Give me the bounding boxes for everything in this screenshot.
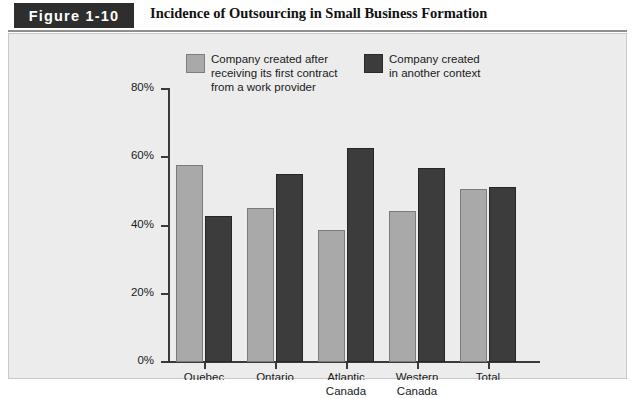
y-axis-label-60: 60% xyxy=(114,149,154,161)
y-tick-0 xyxy=(161,361,169,363)
legend-light-line2: receiving its first contract xyxy=(211,66,338,80)
bar-atlantic-dark xyxy=(347,148,374,362)
bar-western-light xyxy=(389,211,416,362)
y-axis-label-40: 40% xyxy=(114,218,154,230)
header-divider xyxy=(8,30,627,32)
page-bottom-margin xyxy=(0,380,635,387)
x-tick-1 xyxy=(204,363,206,369)
figure-number-tag: Figure 1-10 xyxy=(14,3,134,28)
legend-light-line1: Company created after xyxy=(211,52,338,66)
y-axis-label-80: 80% xyxy=(114,81,154,93)
bar-quebec-light xyxy=(176,165,203,362)
legend-label-dark: Company created in another context xyxy=(389,52,480,80)
bar-atlantic-light xyxy=(318,230,345,362)
x-tick-4 xyxy=(417,363,419,369)
x-tick-5 xyxy=(488,363,490,369)
bar-ontario-dark xyxy=(276,174,303,362)
dark-gray-swatch-icon xyxy=(364,54,383,73)
legend-light-line3: from a work provider xyxy=(211,80,338,94)
bar-total-light xyxy=(460,189,487,362)
bar-total-dark xyxy=(489,187,516,362)
chart-panel: Company created after receiving its firs… xyxy=(8,33,627,379)
legend-dark-line2: in another context xyxy=(389,66,480,80)
figure-title: Incidence of Outsourcing in Small Busine… xyxy=(150,5,487,22)
y-tick-80 xyxy=(161,88,169,90)
figure-header: Figure 1-10 Incidence of Outsourcing in … xyxy=(0,0,635,31)
bar-western-dark xyxy=(418,168,445,362)
x-tick-2 xyxy=(275,363,277,369)
y-tick-40 xyxy=(161,225,169,227)
light-gray-swatch-icon xyxy=(186,54,205,73)
y-tick-20 xyxy=(161,293,169,295)
y-tick-60 xyxy=(161,156,169,158)
y-axis-label-0: 0% xyxy=(114,354,154,366)
bar-quebec-dark xyxy=(205,216,232,362)
x-tick-3 xyxy=(346,363,348,369)
bar-ontario-light xyxy=(247,208,274,362)
y-axis-label-20: 20% xyxy=(114,286,154,298)
legend-label-light: Company created after receiving its firs… xyxy=(211,52,338,94)
legend-dark-line1: Company created xyxy=(389,52,480,66)
